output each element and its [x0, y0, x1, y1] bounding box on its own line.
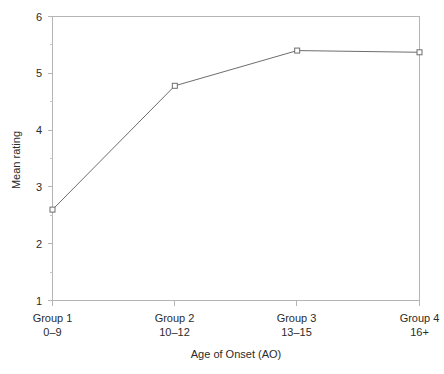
y-tick-label-4: 4: [36, 124, 42, 136]
y-tick-label-3: 3: [36, 181, 42, 193]
plot-border: [53, 17, 420, 301]
plot-frame: [53, 17, 420, 301]
series-markers: [50, 48, 422, 212]
x-category-sublabel-group-1: 0–9: [43, 326, 61, 338]
line-chart: 1 2 3 4 5 6 Group 1 0–9 Group 2 10–12 Gr…: [0, 0, 444, 374]
y-axis-tick-labels: 1 2 3 4 5 6: [36, 11, 42, 307]
y-tick-label-1: 1: [36, 295, 42, 307]
x-category-label-group-3: Group 3: [277, 312, 317, 324]
y-tick-label-2: 2: [36, 238, 42, 250]
data-point-marker: [172, 83, 177, 88]
data-point-marker: [417, 50, 422, 55]
y-tick-label-5: 5: [36, 67, 42, 79]
series-line-mean-rating: [53, 51, 420, 210]
x-category-label-group-4: Group 4: [400, 312, 440, 324]
x-category-sublabel-group-3: 13–15: [281, 326, 312, 338]
x-axis-category-labels: Group 1 0–9 Group 2 10–12 Group 3 13–15 …: [33, 312, 440, 338]
x-category-label-group-1: Group 1: [33, 312, 73, 324]
y-axis-title: Mean rating: [10, 131, 22, 189]
x-category-sublabel-group-2: 10–12: [159, 326, 190, 338]
x-category-sublabel-group-4: 16+: [410, 326, 429, 338]
chart-figure: 1 2 3 4 5 6 Group 1 0–9 Group 2 10–12 Gr…: [0, 0, 444, 374]
data-point-marker: [50, 207, 55, 212]
data-point-marker: [295, 48, 300, 53]
y-tick-label-6: 6: [36, 11, 42, 23]
x-axis-title: Age of Onset (AO): [191, 348, 281, 360]
data-series: [50, 48, 422, 212]
x-category-label-group-2: Group 2: [155, 312, 195, 324]
x-axis-ticks: [53, 301, 420, 306]
